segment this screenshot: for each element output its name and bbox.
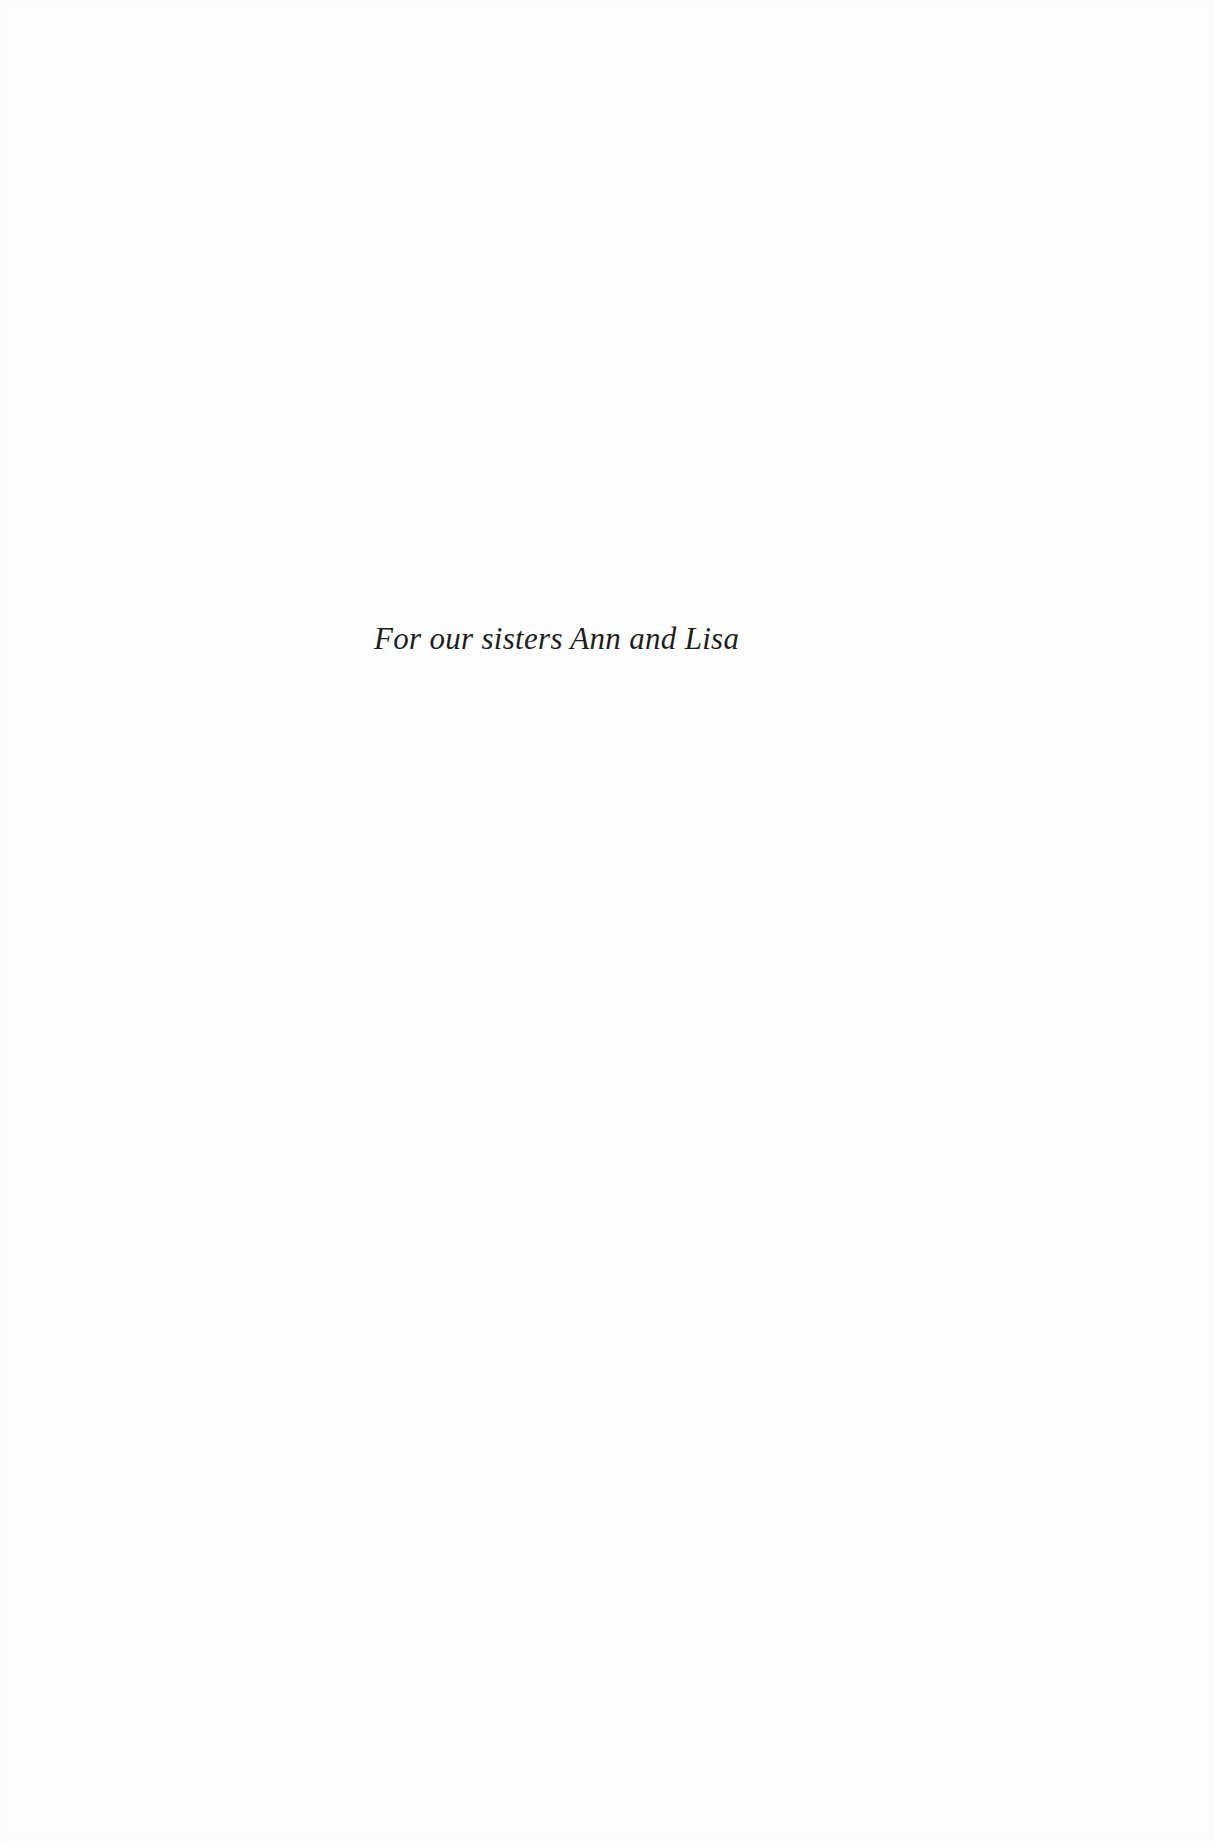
dedication-text: For our sisters Ann and Lisa bbox=[0, 619, 1214, 659]
book-page: For our sisters Ann and Lisa bbox=[0, 0, 1214, 1841]
